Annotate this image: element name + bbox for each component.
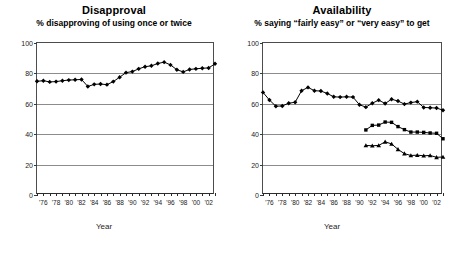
x-axis-tick-mark: [215, 193, 216, 196]
x-axis-tick-label: '76: [265, 199, 273, 206]
x-axis-tick-label: '02: [432, 199, 440, 206]
data-point-marker: [162, 60, 166, 64]
data-point-marker: [280, 104, 284, 108]
data-point-marker: [181, 70, 185, 74]
data-point-marker: [441, 137, 444, 140]
x-axis-tick-label: '98: [179, 199, 187, 206]
panel-subtitle-disapproval: % disapproving of using once or twice: [0, 18, 228, 28]
data-point-marker: [187, 67, 191, 71]
data-point-marker: [377, 123, 380, 126]
panel-disapproval: Disapproval % disapproving of using once…: [0, 0, 228, 258]
data-point-marker: [143, 65, 147, 69]
plot-area-disapproval: 020406080100 '76'78'80'82'84'86'88'90'92…: [36, 42, 214, 194]
data-point-marker: [435, 132, 438, 135]
x-axis-tick-label: '02: [204, 199, 212, 206]
x-axis-tick-label: '86: [329, 199, 337, 206]
two-panel-line-chart-figure: Disapproval % disapproving of using once…: [0, 0, 457, 258]
data-point-marker: [319, 89, 323, 93]
panel-availability: Availability % saying “fairly easy” or “…: [228, 0, 456, 258]
data-point-marker: [364, 128, 367, 131]
x-axis-tick-label: '96: [166, 199, 174, 206]
data-point-marker: [92, 82, 96, 86]
y-axis-tick-label: 100: [247, 40, 259, 47]
x-axis-tick-label: '80: [291, 199, 299, 206]
data-point-marker: [130, 69, 134, 73]
x-axis-tick-label: '92: [368, 199, 376, 206]
x-axis-tick-label: '88: [115, 199, 123, 206]
data-point-marker: [54, 79, 58, 83]
data-point-marker: [98, 82, 102, 86]
data-point-marker: [48, 80, 52, 84]
x-axis-tick-label: '78: [278, 199, 286, 206]
y-axis-tick-label: 60: [251, 100, 259, 107]
panel-subtitle-availability: % saying “fairly easy” or “very easy” to…: [228, 18, 456, 28]
data-point-marker: [396, 99, 400, 103]
data-point-marker: [332, 95, 336, 99]
panel-title-disapproval: Disapproval: [0, 4, 228, 16]
data-point-marker: [409, 130, 412, 133]
y-axis-tick-label: 40: [251, 131, 259, 138]
data-point-marker: [105, 82, 109, 86]
y-axis-tick-label: 20: [25, 161, 33, 168]
data-point-marker: [371, 124, 374, 127]
y-axis-tick-label: 80: [251, 70, 259, 77]
series-layer-disapproval: [37, 43, 215, 195]
data-point-marker: [67, 78, 71, 82]
x-axis-tick-label: '98: [407, 199, 415, 206]
data-point-marker: [338, 95, 342, 99]
panel-title-availability: Availability: [228, 4, 456, 16]
y-axis-tick-label: 40: [25, 131, 33, 138]
y-axis-tick-label: 0: [29, 192, 33, 199]
data-point-marker: [390, 121, 393, 124]
data-point-marker: [409, 100, 413, 104]
data-point-marker: [312, 89, 316, 93]
data-point-marker: [194, 67, 198, 71]
x-axis-tick-label: '90: [355, 199, 363, 206]
x-axis-title-availability: Year: [218, 222, 446, 231]
x-axis-tick-label: '82: [304, 199, 312, 206]
data-point-marker: [383, 140, 388, 144]
data-point-marker: [441, 108, 445, 112]
data-point-marker: [396, 125, 399, 128]
x-axis-tick-label: '82: [77, 199, 85, 206]
data-point-marker: [434, 106, 438, 110]
y-axis-tick-label: 20: [251, 161, 259, 168]
y-axis-tick-label: 80: [25, 70, 33, 77]
x-axis-tick-label: '92: [141, 199, 149, 206]
data-point-marker: [60, 79, 64, 83]
data-point-marker: [200, 66, 204, 70]
data-point-marker: [428, 106, 432, 110]
x-axis-tick-label: '94: [381, 199, 389, 206]
x-axis-tick-label: '00: [192, 199, 200, 206]
data-point-marker: [137, 67, 141, 71]
x-axis-tick-label: '86: [103, 199, 111, 206]
data-point-marker: [428, 131, 431, 134]
x-axis-tick-label: '00: [419, 199, 427, 206]
y-axis-tick-label: 100: [21, 40, 33, 47]
x-axis-tick-label: '78: [52, 199, 60, 206]
data-point-marker: [156, 61, 160, 65]
x-axis-tick-label: '90: [128, 199, 136, 206]
data-point-marker: [73, 78, 77, 82]
x-axis-title-disapproval: Year: [0, 222, 218, 231]
plot-area-availability: 020406080100 '76'78'80'82'84'86'88'90'92…: [262, 42, 442, 194]
data-point-marker: [299, 89, 303, 93]
data-point-marker: [287, 101, 291, 105]
data-point-marker: [364, 105, 368, 109]
data-point-marker: [370, 101, 374, 105]
data-point-marker: [416, 130, 419, 133]
data-point-marker: [293, 100, 297, 104]
data-point-marker: [377, 98, 381, 102]
x-axis-tick-label: '76: [39, 199, 47, 206]
data-point-marker: [402, 102, 406, 106]
y-axis-tick-label: 60: [25, 100, 33, 107]
x-axis-tick-label: '80: [65, 199, 73, 206]
series-layer-availability: [263, 43, 443, 195]
x-axis-tick-label: '84: [90, 199, 98, 206]
data-point-marker: [149, 64, 153, 68]
data-point-marker: [41, 79, 45, 83]
x-axis-tick-label: '88: [342, 199, 350, 206]
y-axis-tick-label: 0: [255, 192, 259, 199]
data-point-marker: [306, 85, 310, 89]
x-axis-tick-label: '84: [317, 199, 325, 206]
